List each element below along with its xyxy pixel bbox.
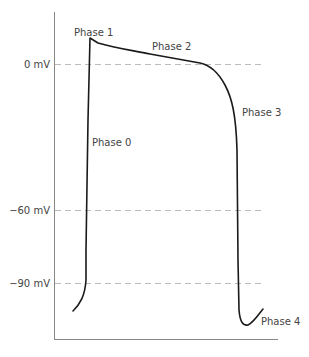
phase-2-label: Phase 2 <box>152 41 191 52</box>
phase-4-label: Phase 4 <box>261 316 300 327</box>
phase-3-label: Phase 3 <box>242 107 281 118</box>
action-potential-diagram: 0 mV −60 mV −90 mV Phase 0 Phase 1 Phase… <box>0 0 309 357</box>
phase-1-label: Phase 1 <box>74 27 113 38</box>
y-label-minus60mv: −60 mV <box>9 205 50 216</box>
phase-0-label: Phase 0 <box>92 137 131 148</box>
action-potential-curve <box>73 38 263 325</box>
y-label-0mv: 0 mV <box>24 59 50 70</box>
y-label-minus90mv: −90 mV <box>9 278 50 289</box>
